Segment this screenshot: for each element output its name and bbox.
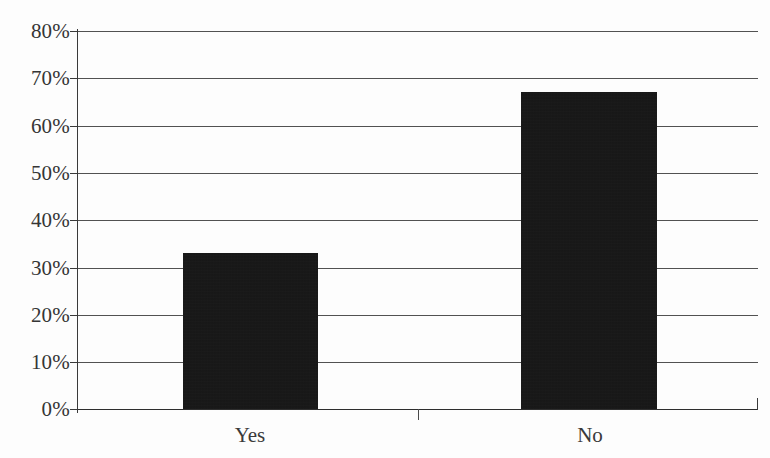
y-tick-label-10: 10% [8, 352, 70, 373]
y-tick-label-40: 40% [8, 210, 70, 231]
bar-chart: 80% 70% 60% 50% 40% 30% 20% 10% 0% Yes [0, 0, 770, 458]
y-tick-label-60: 60% [8, 116, 70, 137]
y-tick-label-50: 50% [8, 163, 70, 184]
y-tick-label-0: 0% [8, 399, 70, 420]
bar-yes[interactable] [183, 253, 318, 409]
y-tick-label-30: 30% [8, 258, 70, 279]
axis-end-cap [757, 398, 758, 410]
y-tick-label-80: 80% [8, 21, 70, 42]
x-tick-label-yes: Yes [180, 424, 320, 446]
gridline-70 [78, 78, 758, 79]
y-tick-label-70: 70% [8, 68, 70, 89]
gridline-80 [78, 31, 758, 32]
bar-no[interactable] [521, 92, 657, 409]
y-tick-label-20: 20% [8, 305, 70, 326]
plot-area [78, 31, 758, 409]
x-tick-label-no: No [520, 424, 660, 446]
y-axis-labels: 80% 70% 60% 50% 40% 30% 20% 10% 0% [8, 0, 70, 458]
category-divider-tick [418, 409, 419, 420]
